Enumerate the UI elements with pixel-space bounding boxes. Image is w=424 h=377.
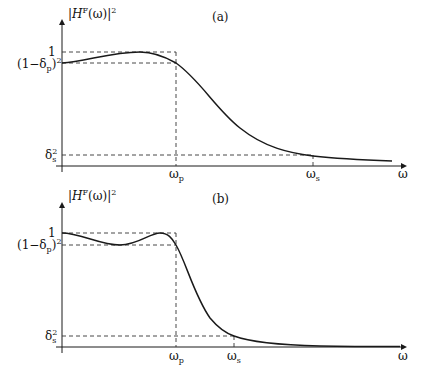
- panel-a: |HF(ω)|2 (a) 1 (1−δp)2 δs2 ωp ωs ω: [17, 6, 408, 183]
- ytick-passband-a: (1−δp)2: [17, 56, 62, 73]
- y-axis-label-a: |HF(ω)|2: [68, 6, 116, 21]
- y-axis-label-b: |HF(ω)|2: [68, 188, 116, 203]
- xtick-ws-b: ωs: [227, 349, 241, 365]
- x-axis-label-b: ω: [398, 349, 408, 363]
- panel-tag-b: (b): [212, 192, 229, 206]
- panel-b: |HF(ω)|2 (b) 1 (1−δp)2 δs2 ωp ωs ω: [17, 188, 408, 365]
- guides-a: [62, 52, 313, 166]
- guides-b: [62, 233, 234, 347]
- response-curve-a: [62, 52, 392, 161]
- x-axis-label-a: ω: [398, 167, 408, 181]
- panel-tag-a: (a): [212, 10, 229, 24]
- xtick-wp-a: ωp: [169, 167, 184, 183]
- filter-response-diagram: |HF(ω)|2 (a) 1 (1−δp)2 δs2 ωp ωs ω |HF(ω…: [0, 0, 424, 377]
- response-curve-b: [62, 233, 400, 347]
- ytick-stopband-a: δs2: [45, 147, 57, 164]
- ytick-passband-b: (1−δp)2: [17, 237, 62, 254]
- xtick-wp-b: ωp: [169, 349, 184, 365]
- xtick-ws-a: ωs: [306, 167, 320, 183]
- ytick-stopband-b: δs2: [45, 328, 57, 345]
